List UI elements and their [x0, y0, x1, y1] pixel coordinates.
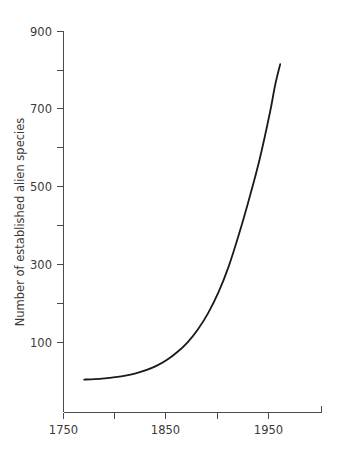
x-axis-tick-label-1850: 1850 — [151, 423, 180, 437]
y-axis-tick-label-300: 300 — [30, 258, 52, 272]
y-axis-tick-label-100: 100 — [30, 336, 52, 350]
x-axis-tick-label-1750: 1750 — [49, 423, 78, 437]
x-axis-tick-label-1950: 1950 — [254, 423, 283, 437]
y-axis-title: Number of established alien species — [13, 118, 27, 327]
chart-background — [0, 0, 344, 450]
chart-figure: 900 700 500 300 100 1750 1850 1950 Numbe… — [0, 0, 344, 450]
y-axis-tick-label-700: 700 — [30, 102, 52, 116]
y-axis-tick-label-500: 500 — [30, 180, 52, 194]
y-axis-tick-label-900: 900 — [30, 25, 52, 39]
chart-canvas: 900 700 500 300 100 1750 1850 1950 Numbe… — [0, 0, 344, 450]
